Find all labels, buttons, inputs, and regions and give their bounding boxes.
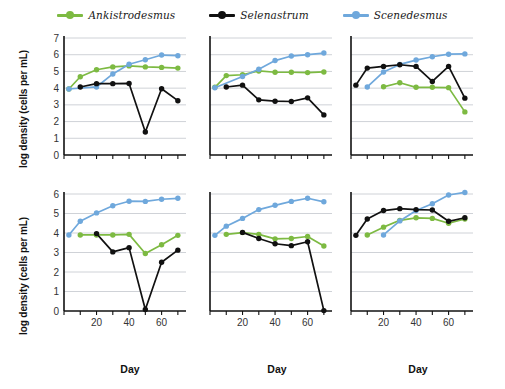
- data-point-ankistrodesmus: [272, 236, 277, 241]
- y-tick-label: 6: [53, 49, 59, 60]
- data-point-ankistrodesmus: [321, 69, 326, 74]
- data-point-scenedesmus: [365, 84, 370, 89]
- data-point-ankistrodesmus: [305, 234, 310, 239]
- panel-r0c1: [186, 30, 336, 177]
- data-point-scenedesmus: [126, 62, 131, 67]
- series-line-scenedesmus: [69, 198, 178, 235]
- data-point-selenastrum: [462, 215, 467, 220]
- legend-label-scenedesmus: Scenedesmus: [374, 9, 448, 21]
- data-point-ankistrodesmus: [143, 251, 148, 256]
- data-point-ankistrodesmus: [321, 243, 326, 248]
- y-tick-label: 1: [53, 133, 59, 144]
- data-point-selenastrum: [365, 216, 370, 221]
- x-tick-label: 40: [124, 317, 136, 328]
- data-point-selenastrum: [446, 219, 451, 224]
- x-tick-label: 60: [302, 317, 314, 328]
- figure-root: Ankistrodesmus Selenastrum Scenedesmus l…: [0, 0, 505, 389]
- data-point-scenedesmus: [305, 196, 310, 201]
- data-point-scenedesmus: [212, 233, 217, 238]
- data-point-ankistrodesmus: [289, 236, 294, 241]
- data-point-selenastrum: [224, 84, 229, 89]
- data-point-ankistrodesmus: [224, 73, 229, 78]
- data-point-selenastrum: [365, 65, 370, 70]
- data-point-scenedesmus: [224, 223, 229, 228]
- data-point-selenastrum: [305, 95, 310, 100]
- legend-item-scenedesmus: Scenedesmus: [343, 9, 448, 21]
- data-point-ankistrodesmus: [175, 233, 180, 238]
- y-tick-label: 1: [53, 286, 59, 297]
- data-point-scenedesmus: [446, 52, 451, 57]
- data-point-ankistrodesmus: [397, 80, 402, 85]
- y-tick-label: 6: [53, 189, 59, 200]
- y-tick-label: 2: [53, 116, 59, 127]
- y-tick-label: 0: [53, 306, 59, 317]
- data-point-ankistrodesmus: [381, 84, 386, 89]
- data-point-ankistrodesmus: [126, 232, 131, 237]
- data-point-selenastrum: [413, 207, 418, 212]
- line-marker-green-icon: [57, 10, 83, 20]
- series-line-ankistrodesmus: [384, 83, 465, 112]
- x-tick-label: 40: [411, 317, 423, 328]
- data-point-scenedesmus: [159, 52, 164, 57]
- data-point-scenedesmus: [143, 199, 148, 204]
- data-point-selenastrum: [289, 99, 294, 104]
- data-point-selenastrum: [126, 245, 131, 250]
- data-point-selenastrum: [321, 112, 326, 117]
- data-point-scenedesmus: [413, 57, 418, 62]
- data-point-selenastrum: [397, 206, 402, 211]
- x-tick-label: 20: [91, 317, 103, 328]
- data-point-selenastrum: [159, 86, 164, 91]
- data-point-selenastrum: [175, 247, 180, 252]
- data-point-scenedesmus: [256, 207, 261, 212]
- data-point-selenastrum: [305, 239, 310, 244]
- data-point-ankistrodesmus: [110, 232, 115, 237]
- data-point-scenedesmus: [381, 69, 386, 74]
- data-point-ankistrodesmus: [224, 232, 229, 237]
- data-point-scenedesmus: [126, 199, 131, 204]
- y-tick-label: 5: [53, 66, 59, 77]
- data-point-ankistrodesmus: [78, 74, 83, 79]
- data-point-scenedesmus: [66, 86, 71, 91]
- data-point-scenedesmus: [430, 201, 435, 206]
- y-tick-label: 3: [53, 99, 59, 110]
- legend-item-selenastrum: Selenastrum: [209, 9, 308, 21]
- data-point-selenastrum: [110, 81, 115, 86]
- data-point-ankistrodesmus: [110, 64, 115, 69]
- data-point-selenastrum: [240, 230, 245, 235]
- data-point-selenastrum: [462, 95, 467, 100]
- x-axis-title-col1: Day: [222, 363, 332, 375]
- data-point-scenedesmus: [272, 58, 277, 63]
- data-point-selenastrum: [397, 62, 402, 67]
- y-tick-label: 2: [53, 267, 59, 278]
- panel-r0c2: [327, 30, 477, 177]
- data-point-ankistrodesmus: [381, 224, 386, 229]
- chart-legend: Ankistrodesmus Selenastrum Scenedesmus: [0, 4, 505, 26]
- x-tick-label: 20: [237, 317, 249, 328]
- data-point-scenedesmus: [446, 192, 451, 197]
- panel-r1c1: 204060: [186, 186, 336, 333]
- data-point-scenedesmus: [78, 219, 83, 224]
- data-point-scenedesmus: [430, 54, 435, 59]
- legend-label-ankistrodesmus: Ankistrodesmus: [88, 9, 175, 21]
- data-point-selenastrum: [272, 241, 277, 246]
- data-point-scenedesmus: [462, 51, 467, 56]
- x-tick-label: 20: [378, 317, 390, 328]
- y-tick-label: 4: [53, 228, 59, 239]
- x-tick-label: 60: [443, 317, 455, 328]
- data-point-scenedesmus: [240, 216, 245, 221]
- data-point-scenedesmus: [305, 52, 310, 57]
- data-point-selenastrum: [256, 97, 261, 102]
- data-point-scenedesmus: [159, 197, 164, 202]
- data-point-scenedesmus: [66, 232, 71, 237]
- data-point-scenedesmus: [110, 71, 115, 76]
- data-point-scenedesmus: [289, 199, 294, 204]
- data-point-scenedesmus: [462, 190, 467, 195]
- data-point-ankistrodesmus: [305, 70, 310, 75]
- data-point-scenedesmus: [289, 53, 294, 58]
- data-point-ankistrodesmus: [446, 85, 451, 90]
- x-tick-label: 40: [270, 317, 282, 328]
- data-point-ankistrodesmus: [430, 216, 435, 221]
- line-marker-blue-icon: [343, 10, 369, 20]
- data-point-selenastrum: [381, 208, 386, 213]
- data-point-selenastrum: [289, 243, 294, 248]
